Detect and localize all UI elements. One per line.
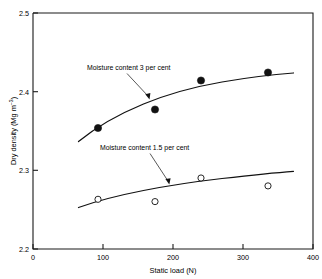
data-point-filled (197, 77, 204, 84)
y-tick-label-2-3: 2.3 (19, 166, 29, 175)
chart-background (0, 0, 322, 279)
x-tick-label-100: 100 (97, 253, 109, 262)
data-point-filled (151, 106, 158, 113)
data-point-filled (264, 69, 271, 76)
x-tick-label-400: 400 (307, 253, 319, 262)
x-tick-label-0: 0 (31, 253, 35, 262)
y-tick-label-2-4: 2.4 (19, 88, 29, 97)
data-point-filled (94, 124, 101, 131)
annotation-moisture-1-5-label: Moisture content 1.5 per cent (100, 144, 189, 152)
scatter-chart: 2.5 2.4 2.3 2.2 0 100 200 300 400 Static… (0, 0, 322, 279)
figure-container: 2.5 2.4 2.3 2.2 0 100 200 300 400 Static… (0, 0, 322, 279)
annotation-moisture-3-label: Moisture content 3 per cent (87, 64, 171, 72)
data-point-open (265, 183, 271, 189)
y-tick-label-2-2: 2.2 (19, 245, 29, 254)
data-point-open (198, 175, 204, 181)
x-tick-label-300: 300 (237, 253, 249, 262)
y-tick-label-2-5: 2.5 (19, 9, 29, 18)
data-point-open (95, 196, 101, 202)
svg-text:Dry density (Mg m–3): Dry density (Mg m–3) (8, 97, 18, 165)
x-tick-label-200: 200 (167, 253, 179, 262)
y-axis-title: Dry density (Mg m–3) (8, 97, 18, 165)
x-axis-title: Static load (N) (150, 266, 197, 275)
data-point-open (152, 199, 158, 205)
y-axis-title-base: Dry density (Mg m (9, 105, 18, 165)
y-axis-title-tail: ) (9, 97, 18, 99)
